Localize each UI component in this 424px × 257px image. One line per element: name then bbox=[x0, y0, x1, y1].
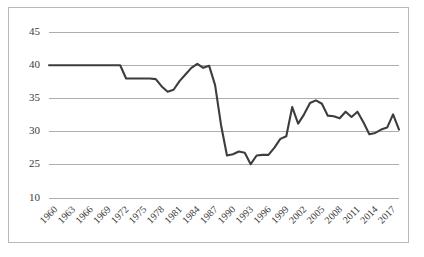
x-axis-tick-label: 2008 bbox=[322, 204, 344, 226]
line-chart: 102530354045 196019631966196919721975197… bbox=[9, 8, 408, 242]
y-axis-tick-label: 45 bbox=[29, 25, 41, 37]
x-axis-tick-label: 2014 bbox=[358, 204, 380, 226]
data-series-line bbox=[49, 64, 399, 164]
x-axis-tick-label: 1966 bbox=[73, 204, 95, 226]
x-axis-tick-label: 1975 bbox=[126, 204, 148, 226]
y-axis-tick-label: 10 bbox=[29, 191, 41, 203]
y-axis-tick-label: 30 bbox=[29, 124, 41, 136]
x-axis-tick-label: 1993 bbox=[233, 204, 255, 226]
x-axis-tick-label: 2005 bbox=[304, 204, 326, 226]
x-axis-tick-label: 1987 bbox=[198, 204, 220, 226]
y-axis-tick-labels: 102530354045 bbox=[29, 25, 41, 203]
x-axis-tick-label: 2017 bbox=[376, 204, 398, 226]
x-axis-tick-label: 1999 bbox=[269, 204, 291, 226]
x-axis-tick-label: 1990 bbox=[215, 204, 237, 226]
x-axis-tick-label: 1972 bbox=[109, 204, 131, 226]
y-axis-tick-label: 40 bbox=[29, 58, 41, 70]
x-axis-tick-label: 1960 bbox=[37, 204, 59, 226]
y-axis-tick-label: 35 bbox=[29, 91, 41, 103]
x-axis-tick-label: 2002 bbox=[287, 204, 309, 226]
x-axis-tick-label: 1981 bbox=[162, 204, 184, 226]
x-axis-tick-label: 1969 bbox=[91, 204, 113, 226]
x-axis-tick-label: 1963 bbox=[55, 204, 77, 226]
x-axis-tick-labels: 1960196319661969197219751978198119841987… bbox=[37, 204, 397, 226]
x-axis-tick-label: 1984 bbox=[180, 204, 202, 226]
chart-card: 102530354045 196019631966196919721975197… bbox=[8, 7, 409, 243]
x-axis-tick-label: 1978 bbox=[144, 204, 166, 226]
gridlines-group bbox=[49, 32, 399, 198]
x-axis-tick-label: 1996 bbox=[251, 204, 273, 226]
y-axis-tick-label: 25 bbox=[29, 157, 41, 169]
x-axis-tick-label: 2011 bbox=[340, 204, 362, 226]
